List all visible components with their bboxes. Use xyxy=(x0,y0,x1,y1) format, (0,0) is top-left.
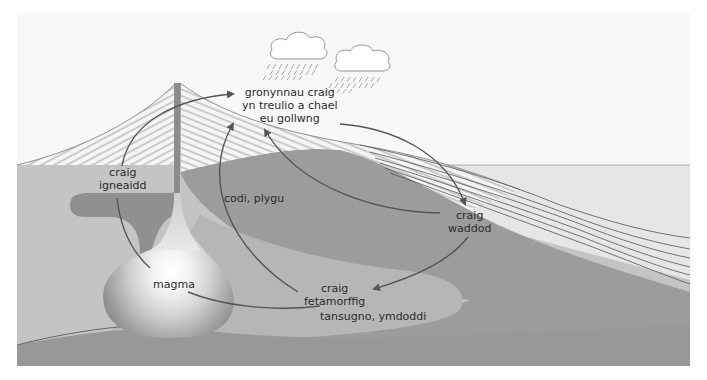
label-weathering-line-1: gronynnau craig xyxy=(242,86,337,99)
rock-cycle-diagram: gronynnau craig yn treulio a chael eu go… xyxy=(0,0,707,380)
label-metamorphic: craig fetamorffig xyxy=(304,282,365,308)
label-sedimentary-line-1: craig xyxy=(448,209,491,222)
label-weathering-line-3: eu gollwng xyxy=(242,112,337,125)
label-weathering-line-2: yn treulio a chael xyxy=(242,99,337,112)
label-igneous-line-2: igneaidd xyxy=(99,179,147,192)
label-sedimentary: craig waddod xyxy=(448,209,491,235)
label-subduction-text: tansugno, ymdoddi xyxy=(320,310,426,323)
label-metamorphic-line-1: craig xyxy=(304,282,365,295)
label-weathering: gronynnau craig yn treulio a chael eu go… xyxy=(242,86,337,125)
label-igneous: craig igneaidd xyxy=(99,166,147,192)
label-uplift-text: codi, plygu xyxy=(224,192,284,205)
label-sedimentary-line-2: waddod xyxy=(448,222,491,235)
label-magma-text: magma xyxy=(153,278,195,291)
label-subduction: tansugno, ymdoddi xyxy=(320,310,426,323)
label-uplift: codi, plygu xyxy=(224,192,284,205)
label-magma: magma xyxy=(153,278,195,291)
label-metamorphic-line-2: fetamorffig xyxy=(304,295,365,308)
label-igneous-line-1: craig xyxy=(99,166,147,179)
